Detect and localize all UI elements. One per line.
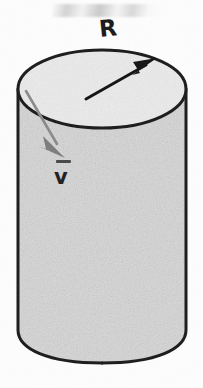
radius-label: R xyxy=(98,16,118,41)
cylinder-diagram-svg xyxy=(0,0,203,388)
paper-grain-overlay xyxy=(0,0,203,388)
cylinder-figure: R v xyxy=(0,0,203,388)
velocity-label-letter: v xyxy=(54,167,68,188)
velocity-label: v xyxy=(54,160,80,192)
velocity-vector-overbar xyxy=(56,160,71,163)
